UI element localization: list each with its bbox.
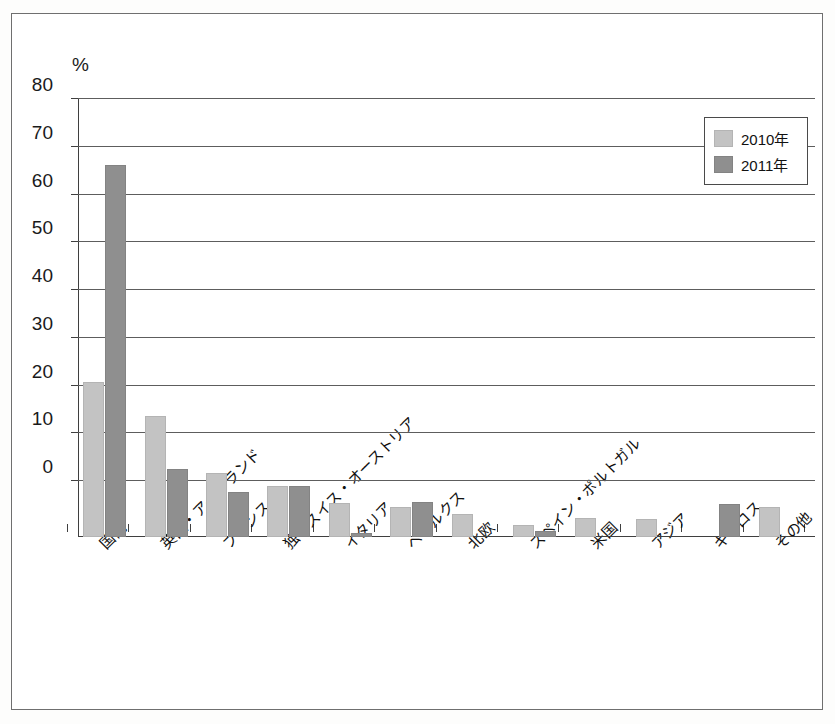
gridline-40 bbox=[78, 289, 815, 290]
y-tick-label-70: 70 bbox=[32, 123, 53, 142]
figure-frame: % 80706050403020100 国内英国・アイルランドフランス独・スイス… bbox=[11, 13, 823, 710]
bar-2010-6 bbox=[452, 514, 473, 537]
legend-item: 2010年 bbox=[714, 125, 807, 151]
bar-2011-10 bbox=[719, 504, 740, 537]
bar-2010-0 bbox=[83, 382, 104, 537]
y-axis-line bbox=[78, 98, 79, 537]
y-tick-mark-30 bbox=[71, 337, 78, 338]
y-tick-mark-0 bbox=[71, 480, 78, 481]
gridline-0 bbox=[78, 480, 815, 481]
bar-2010-3 bbox=[267, 486, 288, 537]
legend-swatch-2011 bbox=[714, 156, 733, 173]
y-tick-mark-60 bbox=[71, 194, 78, 195]
gridline-80 bbox=[78, 98, 815, 99]
y-tick-mark-70 bbox=[71, 146, 78, 147]
x-tick-mark-0 bbox=[67, 524, 68, 532]
bar-2010-5 bbox=[390, 507, 411, 537]
x-axis-line bbox=[78, 536, 815, 537]
gridline-10 bbox=[78, 432, 815, 433]
gridline-50 bbox=[78, 241, 815, 242]
y-tick-label-0: 0 bbox=[42, 457, 53, 476]
y-tick-mark-10 bbox=[71, 432, 78, 433]
gridline-20 bbox=[78, 385, 815, 386]
y-axis-unit-label: % bbox=[72, 54, 89, 76]
bar-2011-0 bbox=[105, 165, 126, 537]
bar-2011-7 bbox=[535, 531, 556, 537]
y-tick-label-40: 40 bbox=[32, 266, 53, 285]
y-tick-mark-20 bbox=[71, 385, 78, 386]
legend: 2010年 2011年 bbox=[704, 117, 808, 185]
bar-2010-9 bbox=[636, 519, 657, 537]
gridline-30 bbox=[78, 337, 815, 338]
bar-2010-8 bbox=[575, 518, 596, 537]
y-tick-label-30: 30 bbox=[32, 314, 53, 333]
legend-item: 2011年 bbox=[714, 151, 807, 177]
bar-2010-7 bbox=[513, 525, 534, 537]
bar-2011-5 bbox=[412, 502, 433, 537]
bar-2011-4 bbox=[351, 533, 372, 537]
bar-2011-3 bbox=[289, 486, 310, 537]
gridline-60 bbox=[78, 194, 815, 195]
y-tick-mark-80 bbox=[71, 98, 78, 99]
y-tick-label-20: 20 bbox=[32, 362, 53, 381]
bar-2010-2 bbox=[206, 473, 227, 537]
y-tick-mark-50 bbox=[71, 241, 78, 242]
y-tick-label-50: 50 bbox=[32, 218, 53, 237]
y-tick-mark-40 bbox=[71, 289, 78, 290]
bar-2010-1 bbox=[145, 416, 166, 537]
legend-label-2011: 2011年 bbox=[741, 154, 788, 175]
y-tick-label-60: 60 bbox=[32, 171, 53, 190]
bar-2010-4 bbox=[329, 503, 350, 537]
chart-page: % 80706050403020100 国内英国・アイルランドフランス独・スイス… bbox=[0, 0, 835, 724]
legend-swatch-2010 bbox=[714, 130, 733, 147]
y-tick-label-80: 80 bbox=[32, 75, 53, 94]
bar-2011-2 bbox=[228, 492, 249, 537]
legend-label-2010: 2010年 bbox=[741, 128, 789, 149]
bar-2011-1 bbox=[167, 469, 188, 537]
y-tick-label-10: 10 bbox=[32, 409, 53, 428]
bar-2010-11 bbox=[759, 507, 780, 537]
